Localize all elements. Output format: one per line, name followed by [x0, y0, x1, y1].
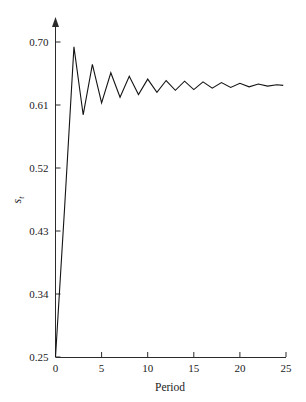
x-axis-title-text: Period [155, 381, 185, 393]
chart-background [0, 0, 306, 402]
chart-figure: 0.250.340.430.520.610.70 0510152025 Peri… [0, 0, 306, 402]
y-tick-label: 0.43 [29, 225, 49, 237]
line-chart: 0.250.340.430.520.610.70 0510152025 Peri… [0, 0, 306, 402]
x-axis-title: Period [155, 381, 185, 393]
x-tick-label: 25 [281, 362, 293, 374]
x-tick-label: 0 [53, 362, 59, 374]
x-tick-label: 15 [188, 362, 200, 374]
x-tick-label: 10 [142, 362, 154, 374]
y-tick-label: 0.25 [29, 351, 49, 363]
y-tick-label: 0.34 [29, 288, 49, 300]
y-tick-label: 0.70 [29, 36, 49, 48]
x-tick-label: 5 [99, 362, 105, 374]
y-tick-label: 0.52 [29, 162, 48, 174]
x-tick-label: 20 [234, 362, 246, 374]
y-tick-label: 0.61 [29, 99, 48, 111]
